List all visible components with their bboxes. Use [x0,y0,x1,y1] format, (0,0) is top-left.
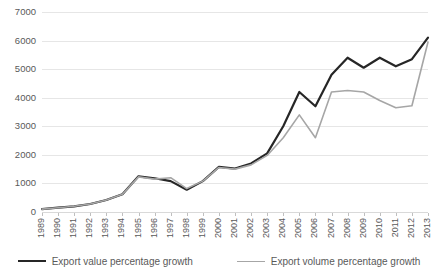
x-axis-tick-mark [396,213,397,216]
legend-item-export-volume[interactable]: Export volume percentage growth [237,256,421,267]
series-line-export-volume [42,42,428,209]
legend-item-export-value[interactable]: Export value percentage growth [18,256,193,267]
y-axis-tick-label: 1000 [15,178,36,188]
y-axis-tick-label: 7000 [15,7,36,17]
x-axis-tick-mark [348,213,349,216]
x-axis-tick-mark [380,213,381,216]
x-axis-tick-label: 1990 [53,218,62,238]
x-axis-tick-mark [90,213,91,216]
y-axis-tick-label: 0 [31,207,36,217]
x-axis-tick-label: 1994 [117,218,126,238]
y-axis-tick-label: 6000 [15,36,36,46]
series-line-export-value [42,38,428,209]
x-axis-tick-label: 2012 [407,218,416,238]
legend-swatch-icon [18,260,46,262]
y-axis-tick-label: 5000 [15,64,36,74]
x-axis-tick-mark [187,213,188,216]
legend-label: Export volume percentage growth [271,256,421,267]
x-axis-tick-label: 2002 [246,218,255,238]
x-axis-tick-mark [171,213,172,216]
x-axis-tick-label: 2006 [310,218,319,238]
legend-label: Export value percentage growth [52,256,193,267]
x-axis-tick-label: 2003 [262,218,271,238]
y-axis-tick-label: 4000 [15,93,36,103]
x-axis: 1989199019911992199319941995199619971998… [42,213,428,249]
x-axis-tick-mark [155,213,156,216]
x-axis-tick-mark [315,213,316,216]
x-axis-tick-label: 2001 [230,218,239,238]
x-axis-tick-label: 1996 [150,218,159,238]
x-axis-tick-label: 1992 [85,218,94,238]
x-axis-tick-mark [219,213,220,216]
x-axis-tick-mark [332,213,333,216]
y-axis-tick-label: 3000 [15,121,36,131]
x-axis-tick-mark [412,213,413,216]
legend-swatch-icon [237,261,265,262]
x-axis-tick-mark [364,213,365,216]
x-axis-tick-mark [106,213,107,216]
line-chart: 01000200030004000500060007000 1989199019… [0,0,438,271]
x-axis-tick-mark [203,213,204,216]
x-axis-tick-label: 2009 [359,218,368,238]
x-axis-tick-mark [74,213,75,216]
x-axis-tick-label: 2011 [391,218,400,237]
x-axis-tick-mark [251,213,252,216]
x-axis-tick-label: 2013 [423,218,432,238]
x-axis-tick-mark [428,213,429,216]
x-axis-tick-label: 1989 [37,218,46,238]
x-axis-tick-label: 1999 [198,218,207,238]
x-axis-tick-mark [299,213,300,216]
x-axis-tick-label: 2004 [278,218,287,238]
x-axis-tick-mark [139,213,140,216]
x-axis-tick-label: 1997 [166,218,175,238]
x-axis-tick-mark [283,213,284,216]
series-layer [42,12,428,212]
x-axis-tick-label: 2000 [214,218,223,238]
x-axis-tick-mark [122,213,123,216]
y-axis: 01000200030004000500060007000 [0,0,42,224]
y-axis-tick-label: 2000 [15,150,36,160]
x-axis-tick-label: 2007 [327,218,336,238]
x-axis-tick-label: 1993 [101,218,110,238]
x-axis-tick-label: 2005 [294,218,303,238]
x-axis-tick-label: 1995 [134,218,143,238]
x-axis-tick-label: 1998 [182,218,191,238]
x-axis-tick-label: 2010 [375,218,384,238]
x-axis-tick-mark [235,213,236,216]
x-axis-tick-mark [267,213,268,216]
plot-area [42,12,428,212]
x-axis-tick-mark [58,213,59,216]
chart-legend: Export value percentage growth Export vo… [0,251,438,271]
x-axis-tick-mark [42,213,43,216]
x-axis-tick-label: 1991 [69,218,78,238]
x-axis-tick-label: 2008 [343,218,352,238]
